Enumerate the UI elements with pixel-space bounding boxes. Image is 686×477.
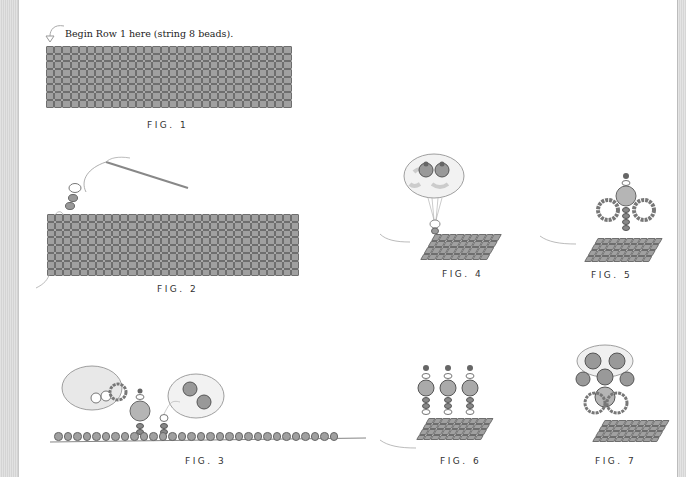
bead [275, 69, 283, 77]
bead [234, 92, 242, 100]
bead [63, 253, 71, 261]
bead [234, 69, 242, 77]
fig7-caption: FIG. 7 [595, 456, 636, 466]
bead [291, 261, 299, 269]
strand-bead [235, 432, 244, 441]
bead [47, 230, 55, 238]
bead [283, 230, 291, 238]
bead [96, 214, 104, 222]
bead [136, 69, 144, 77]
bead [144, 61, 152, 69]
bead [259, 253, 267, 261]
bead [79, 54, 87, 62]
bead [226, 214, 234, 222]
bead [128, 269, 136, 277]
bead [194, 237, 202, 245]
bead [202, 222, 210, 230]
bead [128, 245, 136, 253]
bead [259, 77, 267, 85]
bead [283, 46, 291, 54]
bead [243, 69, 251, 77]
bead [128, 253, 136, 261]
bead [120, 84, 128, 92]
strand-bead [225, 432, 234, 441]
bead [275, 84, 283, 92]
bead [96, 245, 104, 253]
bead [161, 214, 169, 222]
bead [153, 214, 161, 222]
bead [251, 261, 259, 269]
page-edge-right [677, 0, 686, 477]
bead [95, 61, 103, 69]
bead [177, 261, 185, 269]
bead [275, 92, 283, 100]
bead [120, 245, 128, 253]
bead [243, 84, 251, 92]
strand-bead [168, 432, 177, 441]
bead [242, 230, 250, 238]
bead [54, 46, 62, 54]
bead [185, 237, 193, 245]
strand-bead [197, 432, 206, 441]
bead [71, 61, 79, 69]
bead [136, 54, 144, 62]
bead [112, 46, 120, 54]
bead [259, 261, 267, 269]
bead [95, 100, 103, 108]
bead [145, 230, 153, 238]
bead [234, 77, 242, 85]
bead [275, 269, 283, 277]
bead [169, 253, 177, 261]
bead [234, 54, 242, 62]
bead [47, 261, 55, 269]
strand-bead [273, 432, 282, 441]
bead [120, 100, 128, 108]
bead [202, 261, 210, 269]
bead [169, 54, 177, 62]
bead [47, 222, 55, 230]
bead [243, 46, 251, 54]
bead [185, 69, 193, 77]
bead [152, 69, 160, 77]
bead [96, 230, 104, 238]
bead [79, 46, 87, 54]
bead [202, 245, 210, 253]
bead [46, 54, 54, 62]
bead [291, 245, 299, 253]
bead [54, 100, 62, 108]
bead [210, 245, 218, 253]
bead [152, 92, 160, 100]
bead [169, 214, 177, 222]
bead [71, 253, 79, 261]
bead [87, 69, 95, 77]
bead [283, 222, 291, 230]
bead [136, 84, 144, 92]
fig6-bead-grid [416, 418, 493, 440]
bead [218, 100, 226, 108]
bead [153, 253, 161, 261]
bead [267, 214, 275, 222]
bead [153, 222, 161, 230]
bead [120, 269, 128, 277]
bead [242, 237, 250, 245]
strand-bead [216, 432, 225, 441]
bead [112, 92, 120, 100]
bead [202, 253, 210, 261]
bead [177, 84, 185, 92]
bead [210, 100, 218, 108]
bead [177, 100, 185, 108]
bead [144, 84, 152, 92]
strand-bead [311, 432, 320, 441]
bead [137, 222, 145, 230]
bead [169, 46, 177, 54]
bead [267, 100, 275, 108]
bead [88, 222, 96, 230]
strand-bead [330, 432, 339, 441]
bead [226, 92, 234, 100]
bead [128, 214, 136, 222]
bead [169, 269, 177, 277]
strand-bead [301, 432, 310, 441]
bead [80, 230, 88, 238]
strand-bead [244, 432, 253, 441]
bead [145, 269, 153, 277]
